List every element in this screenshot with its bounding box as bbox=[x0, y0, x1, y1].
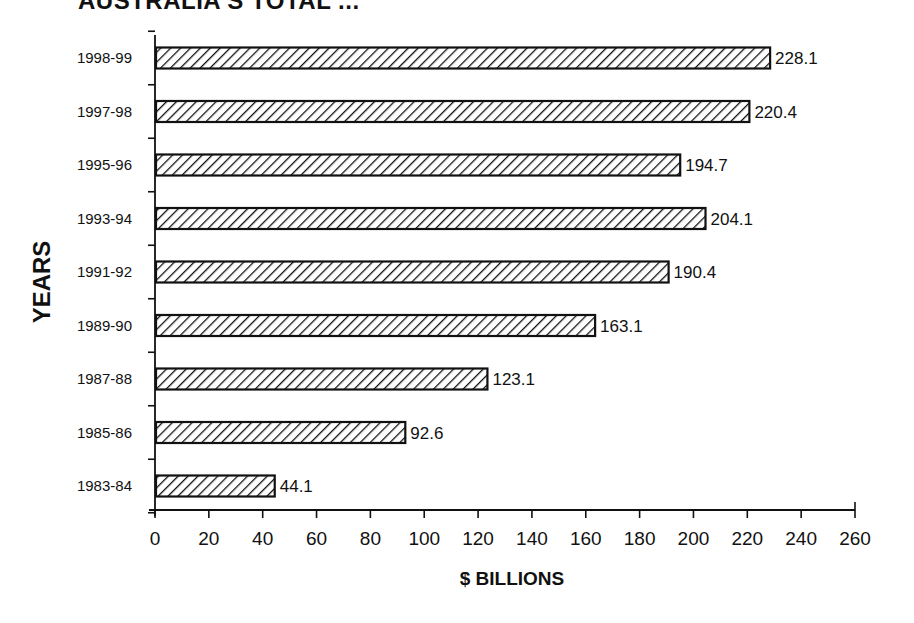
x-tick-label: 240 bbox=[785, 528, 817, 549]
category-label: 1997-98 bbox=[77, 103, 132, 120]
category-label: 1983-84 bbox=[77, 477, 132, 494]
bar bbox=[156, 369, 487, 390]
category-label: 1987-88 bbox=[77, 370, 132, 387]
bar-value-label: 123.1 bbox=[492, 370, 535, 389]
x-tick-label: 100 bbox=[408, 528, 440, 549]
bar bbox=[156, 315, 595, 336]
x-tick-label: 20 bbox=[198, 528, 219, 549]
bar-value-label: 204.1 bbox=[711, 210, 754, 229]
bars-group: 228.11998-99220.41997-98194.71995-96204.… bbox=[77, 48, 818, 497]
x-tick-label: 80 bbox=[360, 528, 381, 549]
x-tick-label: 220 bbox=[731, 528, 763, 549]
bar bbox=[156, 208, 706, 229]
x-tick-label: 180 bbox=[624, 528, 656, 549]
bar bbox=[156, 155, 680, 176]
bar-value-label: 190.4 bbox=[674, 263, 717, 282]
bar-value-label: 92.6 bbox=[410, 424, 443, 443]
category-label: 1989-90 bbox=[77, 317, 132, 334]
x-tick-label: 260 bbox=[839, 528, 871, 549]
bar bbox=[156, 48, 770, 69]
bar-value-label: 220.4 bbox=[754, 103, 797, 122]
bar-chart-plot: 228.11998-99220.41997-98194.71995-96204.… bbox=[0, 0, 914, 623]
bar bbox=[156, 476, 275, 497]
bar-value-label: 194.7 bbox=[685, 156, 728, 175]
bar-value-label: 163.1 bbox=[600, 317, 643, 336]
bar-value-label: 44.1 bbox=[280, 477, 313, 496]
bar bbox=[156, 422, 405, 443]
bar-value-label: 228.1 bbox=[775, 49, 818, 68]
category-label: 1993-94 bbox=[77, 210, 132, 227]
bar bbox=[156, 262, 669, 283]
bar bbox=[156, 101, 749, 122]
category-label: 1991-92 bbox=[77, 263, 132, 280]
x-tick-label: 140 bbox=[516, 528, 548, 549]
category-label: 1998-99 bbox=[77, 49, 132, 66]
x-tick-label: 60 bbox=[306, 528, 327, 549]
x-tick-label: 0 bbox=[150, 528, 161, 549]
category-label: 1995-96 bbox=[77, 156, 132, 173]
x-tick-label: 160 bbox=[570, 528, 602, 549]
category-label: 1985-86 bbox=[77, 424, 132, 441]
x-tick-label: 200 bbox=[678, 528, 710, 549]
x-tick-label: 120 bbox=[462, 528, 494, 549]
x-tick-label: 40 bbox=[252, 528, 273, 549]
